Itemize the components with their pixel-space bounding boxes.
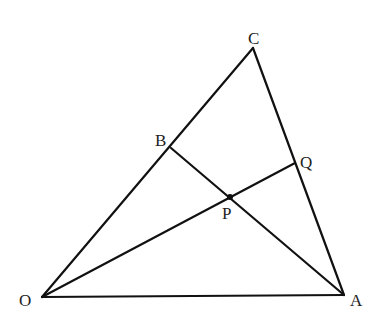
label-B: B — [155, 131, 166, 150]
segment-OQ — [42, 163, 295, 297]
point-P-dot — [227, 194, 233, 200]
segments — [42, 48, 344, 297]
label-Q: Q — [300, 153, 312, 172]
label-P: P — [222, 204, 231, 223]
label-O: O — [19, 291, 31, 310]
label-C: C — [248, 29, 259, 48]
segment-OC — [42, 48, 253, 297]
segment-CA — [253, 48, 344, 295]
triangle-figure: O A C B P Q — [0, 0, 378, 326]
geometry-diagram: O A C B P Q — [0, 0, 378, 326]
label-A: A — [350, 291, 363, 310]
segment-OA — [42, 295, 344, 297]
